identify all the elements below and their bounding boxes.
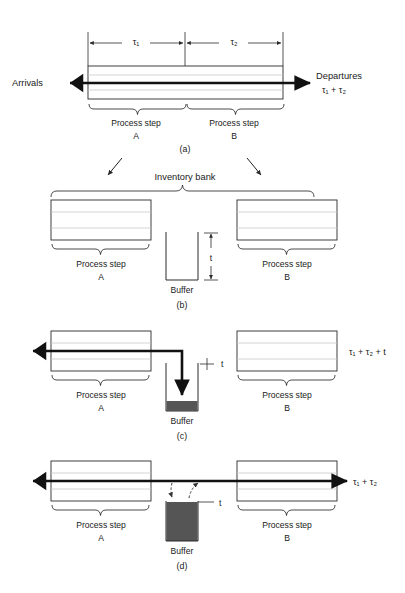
dimension-label-tau2: τ₂ xyxy=(230,37,238,47)
departures-time-label: τ₁ + τ₂ xyxy=(322,85,346,95)
inventory-bank-label: Inventory bank xyxy=(155,172,216,182)
panel-d-step-a-name: A xyxy=(98,533,104,543)
arrivals-label: Arrivals xyxy=(12,78,43,88)
panel-b-step-b-name: B xyxy=(284,272,290,282)
panel-c-step-b-name: B xyxy=(284,403,290,413)
panel-b-box-a xyxy=(51,200,151,240)
panel-d-total-time-label: τ₁ + τ₂ xyxy=(353,477,377,487)
panel-a-step-a-label: Process step xyxy=(111,118,161,128)
panel-c-step-a-label: Process step xyxy=(76,390,126,400)
panel-b-box-b xyxy=(237,200,337,240)
panel-c-step-b-label: Process step xyxy=(262,390,312,400)
panel-b-step-b-label: Process step xyxy=(262,259,312,269)
panel-d-buffer-label: Buffer xyxy=(171,546,194,556)
panel-a-step-b-name: B xyxy=(231,131,237,141)
inventory-buffer-figure: τ₁ τ₂ Arrivals Departures τ₁ + τ₂ Proces… xyxy=(0,0,405,593)
departures-label: Departures xyxy=(316,71,362,81)
panel-c-box-b xyxy=(237,331,337,371)
panel-b-id: (b) xyxy=(177,300,188,310)
panel-b-step-a-name: A xyxy=(98,272,104,282)
panel-c-id: (c) xyxy=(177,431,187,441)
panel-d-step-b-label: Process step xyxy=(262,520,312,530)
panel-a-step-b-label: Process step xyxy=(209,118,259,128)
panel-a-step-a-name: A xyxy=(133,131,139,141)
panel-d-step-b-name: B xyxy=(284,533,290,543)
panel-d-buffer-fill xyxy=(167,502,198,541)
panel-d-id: (d) xyxy=(177,561,188,571)
panel-a-id: (a) xyxy=(180,144,191,154)
panel-c-total-time-label: τ₁ + τ₂ + t xyxy=(349,347,386,357)
panel-c-buffer-label: Buffer xyxy=(171,416,194,426)
panel-c-buffer-fill xyxy=(167,401,198,411)
dimension-label-tau1: τ₁ xyxy=(133,37,140,47)
panel-c-step-a-name: A xyxy=(98,403,104,413)
panel-b-buffer-label: Buffer xyxy=(171,285,194,295)
panel-d-step-a-label: Process step xyxy=(76,520,126,530)
panel-b-step-a-label: Process step xyxy=(76,259,126,269)
